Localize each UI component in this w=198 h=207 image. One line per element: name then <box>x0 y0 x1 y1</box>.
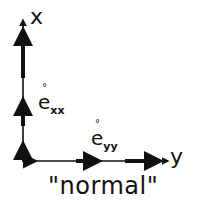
rate-dot-accent: ° <box>95 119 100 129</box>
strain-subscript: yy <box>103 140 117 153</box>
strain-rate-exx-label: e°xx <box>38 92 65 112</box>
rate-dot-accent: ° <box>42 83 47 93</box>
strain-rate-eyy-label: e°yy <box>91 128 118 148</box>
strain-subscript: xx <box>50 104 64 117</box>
diagram-caption: "normal" <box>48 172 158 200</box>
strain-base: e <box>38 90 50 114</box>
strain-base: e <box>91 126 103 150</box>
y-axis-label: y <box>170 146 183 168</box>
x-axis-label: x <box>30 6 43 28</box>
